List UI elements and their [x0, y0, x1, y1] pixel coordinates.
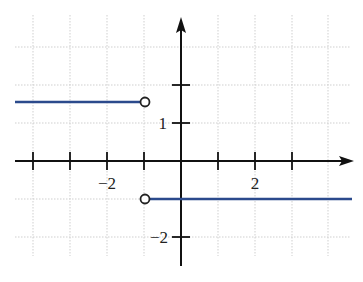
series-piece-left	[15, 98, 150, 107]
x-axis: −2 2	[15, 152, 354, 193]
x-tick-label-2: 2	[251, 174, 260, 193]
step-function-graph: −2 2 1 −2	[0, 0, 363, 282]
grid-horizontal	[15, 47, 350, 237]
y-tick-label-1: 1	[159, 114, 168, 133]
y-axis: 1 −2	[150, 17, 190, 266]
open-endpoint-lower	[141, 195, 150, 204]
open-endpoint-upper	[141, 98, 150, 107]
y-tick-label-neg2: −2	[150, 228, 168, 247]
x-tick-label-neg2: −2	[98, 174, 116, 193]
series-piece-right	[141, 195, 353, 204]
